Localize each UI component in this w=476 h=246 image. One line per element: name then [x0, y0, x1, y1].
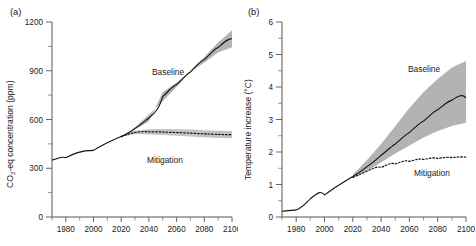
panel-a-y-ticks: 0 300 600 900 1200	[25, 18, 52, 222]
panel-b-xtick-2060: 2060	[400, 225, 419, 234]
panel-b-xtick-2020: 2020	[344, 225, 363, 234]
panel-a-plot: (a) CO2-eq concentration (ppm)	[0, 0, 238, 246]
panel-a-xtick-2040: 2040	[140, 225, 159, 234]
panel-b-ytick-3: 3	[268, 116, 273, 125]
panel-b-ytick-5: 5	[268, 51, 273, 60]
panel-a-xtick-2080: 2080	[195, 225, 214, 234]
panel-a-ylabel: CO2-eq concentration (ppm)	[5, 80, 16, 188]
panel-b-xtick-1980: 1980	[287, 225, 306, 234]
panel-a-ytick-0: 0	[38, 213, 43, 222]
panel-a-ytick-300: 300	[29, 164, 43, 173]
panel-b-y-ticks: 0 1 2 3 4 5 6	[268, 18, 282, 222]
panel-b-baseline-band	[353, 61, 466, 178]
panel-b-ytick-2: 2	[268, 148, 273, 157]
panel-b-plot: (b) Temperature increase (°C)	[238, 0, 476, 246]
panel-a-mitigation-label: Mitigation	[147, 155, 183, 165]
panel-b-ylabel-text: Temperature increase (°C)	[243, 79, 253, 180]
panel-b-xtick-2080: 2080	[429, 225, 448, 234]
panel-b-historical-line	[282, 176, 353, 211]
panel-a-xtick-2000: 2000	[84, 225, 103, 234]
panel-a-ytick-900: 900	[29, 67, 43, 76]
panel-a-ytick-600: 600	[29, 116, 43, 125]
panel-a-xtick-2100: 2100	[223, 225, 238, 234]
panel-a-mitigation-band	[121, 129, 232, 138]
panel-b-xtick-2040: 2040	[372, 225, 391, 234]
panel-a-xtick-2020: 2020	[112, 225, 131, 234]
panel-a-xtick-1980: 1980	[57, 225, 76, 234]
panel-a-ylabel-main: CO	[5, 175, 15, 188]
panel-b-x-ticks: 1980 2000 2020 2040 2060 2080 2100	[282, 217, 476, 234]
panel-b-xtick-2100: 2100	[457, 225, 476, 234]
panel-b: (b) Temperature increase (°C)	[238, 0, 476, 246]
panel-b-ylabel: Temperature increase (°C)	[243, 79, 253, 180]
panel-b-baseline-label: Baseline	[408, 64, 440, 74]
panel-b-ytick-0: 0	[268, 213, 273, 222]
panel-b-ytick-4: 4	[268, 83, 273, 92]
panel-a-ylabel-rest: -eq concentration (ppm)	[5, 80, 15, 171]
panel-a-baseline-band	[121, 30, 232, 137]
panel-a-ytick-1200: 1200	[25, 18, 44, 27]
svg-text:CO2-eq concentration (ppm): CO2-eq concentration (ppm)	[5, 80, 16, 188]
panel-b-mitigation-label: Mitigation	[414, 168, 450, 178]
panel-a-historical-line	[52, 137, 121, 161]
panel-a-tag: (a)	[10, 6, 21, 17]
figure-container: (a) CO2-eq concentration (ppm)	[0, 0, 476, 246]
panel-b-ytick-6: 6	[268, 18, 273, 27]
panel-b-tag: (b)	[248, 6, 259, 17]
panel-a-x-ticks: 1980 2000 2020 2040 2060 2080 2100	[52, 217, 238, 234]
panel-a-baseline-label: Baseline	[152, 67, 184, 77]
panel-a: (a) CO2-eq concentration (ppm)	[0, 0, 238, 246]
panel-b-ytick-1: 1	[268, 181, 273, 190]
panel-b-xtick-2000: 2000	[315, 225, 334, 234]
panel-a-xtick-2060: 2060	[167, 225, 186, 234]
